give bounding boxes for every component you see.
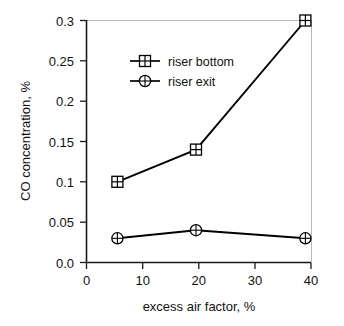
y-axis-title: CO concentration, % <box>18 81 33 201</box>
x-tick-label-30: 30 <box>248 273 262 288</box>
legend-item-riser-bottom[interactable]: riser bottom <box>130 55 234 69</box>
x-tick-label-40: 40 <box>304 273 318 288</box>
y-tick-label-0.2: 0.2 <box>56 94 74 109</box>
y-tick-label-0.25: 0.25 <box>49 54 74 69</box>
chart-background <box>0 0 344 326</box>
y-tick-label-0.3: 0.3 <box>56 14 74 29</box>
x-tick-label-20: 20 <box>192 273 206 288</box>
x-axis-title: excess air factor, % <box>143 299 256 314</box>
y-tick-label-0.0: 0.0 <box>56 256 74 271</box>
y-tick-label-0.1: 0.1 <box>56 175 74 190</box>
y-tick-label-0.05: 0.05 <box>49 215 74 230</box>
y-tick-label-0.15: 0.15 <box>49 135 74 150</box>
legend-label-riser-exit: riser exit <box>168 75 216 89</box>
legend-label-riser-bottom: riser bottom <box>168 55 234 69</box>
co-concentration-chart: 0.3 0.25 0.2 0.15 0.1 0.05 0.0 0 10 20 3… <box>0 0 344 326</box>
chart-svg: 0.3 0.25 0.2 0.15 0.1 0.05 0.0 0 10 20 3… <box>0 0 344 326</box>
legend-item-riser-exit[interactable]: riser exit <box>130 75 216 89</box>
x-tick-label-0: 0 <box>83 273 90 288</box>
x-tick-label-10: 10 <box>135 273 149 288</box>
